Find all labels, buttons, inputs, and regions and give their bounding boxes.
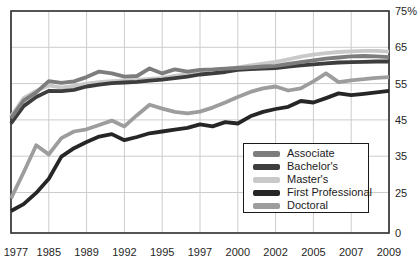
y-tick-label: 75% xyxy=(395,5,417,17)
legend-label: First Professional xyxy=(287,186,372,199)
legend-swatch xyxy=(253,164,280,170)
legend-label: Master's xyxy=(287,173,328,186)
legend-item: Master's xyxy=(253,173,368,186)
y-tick-label: 55 xyxy=(395,78,407,90)
legend-swatch xyxy=(253,190,280,196)
x-tick-label: 1995 xyxy=(150,246,174,258)
legend-swatch xyxy=(253,151,280,157)
x-tick-label: 1997 xyxy=(188,246,212,258)
legend-item: Doctoral xyxy=(253,199,368,212)
line-chart-canvas: 75%6555453525019771985198919921995199720… xyxy=(0,0,420,267)
legend-label: Doctoral xyxy=(287,199,328,212)
y-tick-label: 45 xyxy=(395,114,407,126)
x-tick-label: 2009 xyxy=(377,246,401,258)
y-tick-label: 25 xyxy=(395,187,407,199)
x-tick-label: 1977 xyxy=(4,246,28,258)
legend-item: First Professional xyxy=(253,186,368,199)
x-tick-label: 1985 xyxy=(37,246,61,258)
legend-item: Associate xyxy=(253,147,368,160)
x-tick-label: 2007 xyxy=(339,246,363,258)
legend-label: Bachelor's xyxy=(287,160,338,173)
legend-swatch xyxy=(253,203,280,209)
y-tick-label: 35 xyxy=(395,150,407,162)
x-tick-label: 2002 xyxy=(263,246,287,258)
x-tick-label: 2005 xyxy=(301,246,325,258)
y-tick-label: 0 xyxy=(395,227,401,239)
y-tick-label: 65 xyxy=(395,41,407,53)
degrees-line-chart: 75%6555453525019771985198919921995199720… xyxy=(0,0,420,267)
x-tick-label: 2000 xyxy=(226,246,250,258)
legend-swatch xyxy=(253,177,280,183)
x-tick-label: 1989 xyxy=(74,246,98,258)
legend-item: Bachelor's xyxy=(253,160,368,173)
x-tick-label: 1992 xyxy=(112,246,136,258)
legend-label: Associate xyxy=(287,147,335,160)
legend: AssociateBachelor'sMaster'sFirst Profess… xyxy=(243,143,369,213)
